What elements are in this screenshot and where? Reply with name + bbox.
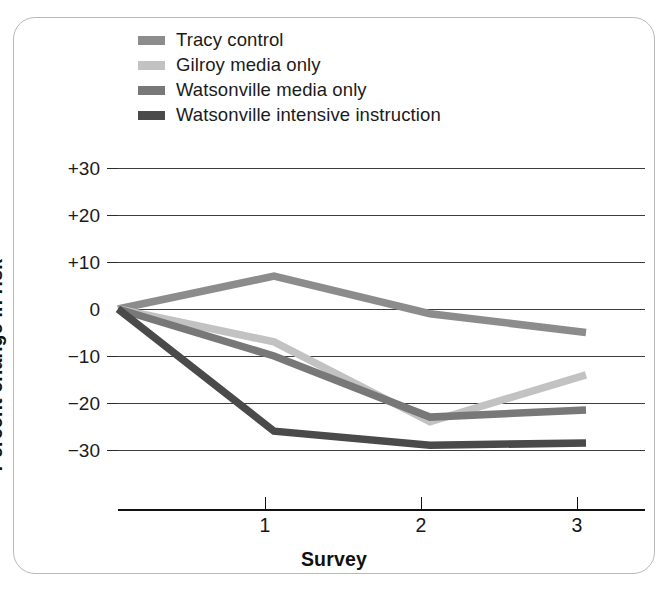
plot-area: +30 +20 +10 0 −10 −20 −30	[118, 168, 645, 509]
y-tick	[107, 215, 118, 216]
y-tick	[107, 168, 118, 169]
legend-item-label: Tracy control	[176, 31, 284, 50]
x-tick	[577, 497, 578, 509]
gridline-neg30	[118, 450, 645, 451]
chart-figure: Tracy control Gilroy media only Watsonvi…	[0, 0, 668, 590]
x-tick	[265, 497, 266, 509]
legend-item[interactable]: Gilroy media only	[138, 53, 558, 78]
y-axis-tick-label: −20	[34, 394, 100, 413]
y-tick	[107, 262, 118, 263]
y-tick	[107, 356, 118, 357]
legend-item[interactable]: Tracy control	[138, 28, 558, 53]
y-axis-tick-label: −10	[34, 347, 100, 366]
gridline-30	[118, 168, 645, 169]
legend-item[interactable]: Watsonville media only	[138, 78, 558, 103]
x-axis-line	[118, 509, 645, 511]
line-swatch-icon	[138, 86, 165, 95]
legend-item-label: Gilroy media only	[176, 56, 321, 75]
y-axis-tick-label: −30	[34, 441, 100, 460]
x-axis-tick-label: 1	[260, 516, 271, 536]
legend-item-label: Watsonville media only	[176, 81, 367, 100]
x-axis-title: Survey	[0, 548, 668, 571]
y-tick	[107, 403, 118, 404]
gridline-10	[118, 262, 645, 263]
gridline-20	[118, 215, 645, 216]
legend-item-label: Watsonville intensive instruction	[176, 106, 441, 125]
x-axis-tick-label: 3	[572, 516, 583, 536]
gridline-0	[118, 309, 645, 310]
line-swatch-icon	[138, 36, 165, 45]
line-swatch-icon	[138, 61, 165, 70]
y-axis-tick-label: +10	[34, 253, 100, 272]
y-tick	[107, 450, 118, 451]
y-axis-title: Percent change in risk	[0, 230, 7, 500]
gridline-neg10	[118, 356, 645, 357]
y-axis-tick-label: 0	[34, 300, 100, 319]
legend-item[interactable]: Watsonville intensive instruction	[138, 103, 558, 128]
chart-legend: Tracy control Gilroy media only Watsonvi…	[138, 28, 558, 128]
gridline-neg20	[118, 403, 645, 404]
x-axis-tick-label: 2	[416, 516, 427, 536]
y-axis-tick-label: +20	[34, 206, 100, 225]
x-tick	[421, 497, 422, 509]
y-axis-tick-label: +30	[34, 159, 100, 178]
line-swatch-icon	[138, 111, 165, 120]
